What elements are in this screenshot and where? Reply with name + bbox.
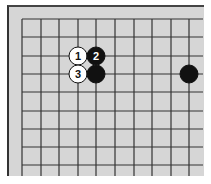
black-stone-2: 2 bbox=[87, 47, 105, 65]
move-number-label: 2 bbox=[93, 50, 99, 62]
white-stone-1: 1 bbox=[69, 47, 87, 65]
black-stone bbox=[87, 65, 105, 83]
go-board-grid: 123 bbox=[0, 0, 211, 184]
white-stone-3: 3 bbox=[69, 65, 87, 83]
black-stone bbox=[180, 65, 198, 83]
move-number-label: 3 bbox=[75, 68, 81, 80]
move-number-label: 1 bbox=[75, 50, 81, 62]
